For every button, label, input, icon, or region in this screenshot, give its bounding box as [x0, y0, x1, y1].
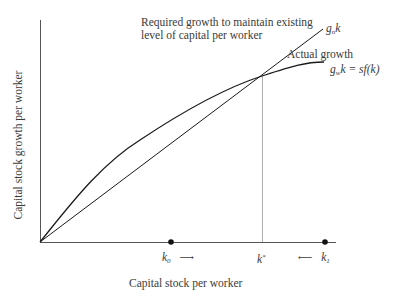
x-axis-label: Capital stock per worker: [129, 277, 242, 290]
required-growth-label-line1: Required growth to maintain existing: [141, 16, 313, 29]
kstar-label: k*: [257, 251, 266, 266]
actual-growth-label: Actual growth: [287, 48, 353, 61]
k1-label: ⟵ k1: [298, 251, 330, 268]
y-axis-label: Capital stock growth per worker: [12, 71, 24, 220]
required-growth-label-line2: level of capital per worker: [141, 29, 262, 42]
actual-growth-symbol: gwk = sf(k): [330, 63, 379, 80]
required-growth-line: [40, 29, 323, 242]
right-arrow-icon: ⟶: [179, 252, 193, 263]
k0-point: [168, 239, 174, 245]
k0-label: k0 ⟶: [162, 251, 194, 268]
diagram-canvas: [0, 0, 404, 298]
k1-point: [322, 239, 328, 245]
required-growth-symbol: gnk: [326, 22, 340, 39]
actual-growth-curve: [40, 62, 324, 242]
left-arrow-icon: ⟵: [298, 252, 312, 263]
